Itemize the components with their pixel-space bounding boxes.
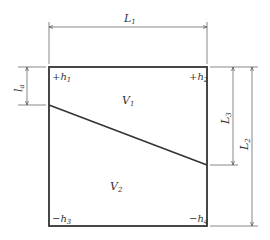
grid-square bbox=[49, 67, 207, 226]
earthwork-diagram: L1 la L3 L2 +h1 +h2 −h3 −h4 V1 V2 bbox=[0, 0, 270, 240]
region-label-v2: V2 bbox=[110, 180, 123, 194]
dimension-left-label: la bbox=[12, 84, 26, 92]
dimension-top-label: L1 bbox=[123, 12, 136, 26]
region-label-v1: V1 bbox=[122, 94, 134, 108]
zero-line bbox=[49, 105, 207, 165]
dimension-top bbox=[49, 22, 207, 64]
corner-label-h1: +h1 bbox=[52, 71, 71, 84]
corner-label-h3: −h3 bbox=[52, 213, 72, 226]
corner-label-h2: +h2 bbox=[189, 71, 209, 84]
dimension-right-outer-label: L2 bbox=[238, 138, 252, 151]
corner-label-h4: −h4 bbox=[189, 213, 208, 226]
dimension-right-inner-label: L3 bbox=[219, 112, 233, 125]
